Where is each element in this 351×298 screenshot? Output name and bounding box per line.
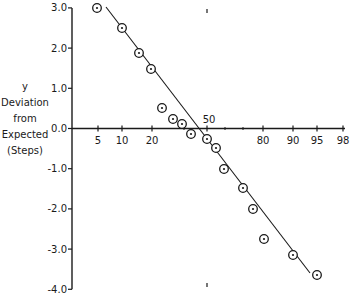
- x-tick-label: 80: [257, 135, 270, 146]
- y-tick-label: -3.0: [47, 244, 67, 255]
- y-tick-label: -1.0: [47, 163, 67, 174]
- x-tick-label: 95: [311, 135, 324, 146]
- data-point-center: [263, 238, 265, 240]
- data-point-center: [292, 254, 294, 256]
- data-point-center: [316, 274, 318, 276]
- x-tick-label: 10: [116, 135, 129, 146]
- data-point-center: [215, 147, 217, 149]
- data-point-center: [138, 52, 140, 54]
- data-point-center: [206, 138, 208, 140]
- x-tick-label: 50: [203, 114, 216, 125]
- y-tick-label: -2.0: [47, 203, 67, 214]
- data-point-center: [172, 118, 174, 120]
- scatter-plot: 3.02.01.00.0-1.0-2.0-3.0-4.0510205080909…: [0, 0, 351, 298]
- data-point-center: [223, 168, 225, 170]
- data-point-center: [96, 7, 98, 9]
- x-tick-label: 5: [95, 135, 101, 146]
- data-point-center: [181, 123, 183, 125]
- y-tick-label: 0.0: [51, 123, 67, 134]
- x-tick-label: 20: [146, 135, 159, 146]
- data-point-center: [150, 68, 152, 70]
- x-tick-label: 98: [337, 135, 350, 146]
- data-point-center: [161, 107, 163, 109]
- data-point-center: [190, 133, 192, 135]
- y-tick-label: 1.0: [51, 83, 67, 94]
- y-tick-label: -4.0: [47, 284, 67, 295]
- data-point-center: [121, 27, 123, 29]
- data-point-center: [252, 208, 254, 210]
- y-tick-label: 2.0: [51, 43, 67, 54]
- x-tick-label: 90: [287, 135, 300, 146]
- data-point-center: [242, 187, 244, 189]
- y-tick-label: 3.0: [51, 2, 67, 13]
